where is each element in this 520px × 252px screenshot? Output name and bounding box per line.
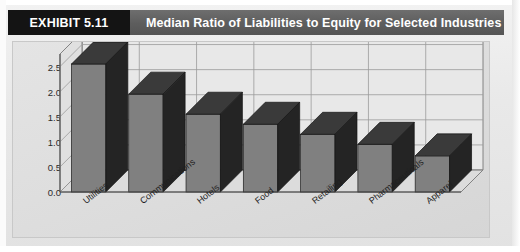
page-edge-bottom bbox=[0, 246, 520, 252]
exhibit-title: Median Ratio of Liabilities to Equity fo… bbox=[130, 10, 504, 35]
bar-utilities bbox=[71, 42, 127, 192]
exhibit-header: EXHIBIT 5.11 Median Ratio of Liabilities… bbox=[8, 10, 504, 35]
bar-chart-plot bbox=[13, 42, 491, 239]
bar-side-face bbox=[106, 42, 128, 192]
bar-front-face bbox=[71, 64, 105, 192]
bar-food bbox=[243, 102, 299, 192]
page-edge-top bbox=[0, 0, 520, 5]
bar-hotels bbox=[186, 92, 242, 192]
exhibit-figure: EXHIBIT 5.11 Median Ratio of Liabilities… bbox=[0, 0, 520, 252]
chart-panel: 0.00.51.01.52.02.5 UtilitiesCommunicatio… bbox=[12, 41, 490, 238]
page-edge-left bbox=[0, 0, 6, 252]
exhibit-number-tag: EXHIBIT 5.11 bbox=[8, 10, 130, 35]
page-edge-right bbox=[512, 0, 520, 252]
bar-front-face bbox=[186, 114, 220, 192]
bar-front-face bbox=[243, 124, 277, 192]
bar-front-face bbox=[129, 94, 163, 192]
